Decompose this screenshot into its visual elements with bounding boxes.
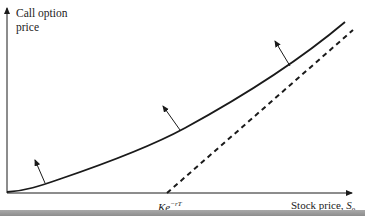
call-price-curve <box>7 22 345 192</box>
y-axis-label: Call option price <box>16 6 67 34</box>
arrow-2-icon <box>163 106 180 130</box>
footer-bar <box>0 210 365 216</box>
strike-label-exponent: −rT <box>170 200 181 208</box>
y-axis-label-line2: price <box>16 20 67 34</box>
arrow-1-icon <box>35 160 45 183</box>
lower-bound-dashed-line <box>167 30 353 193</box>
y-axis-label-line1: Call option <box>16 6 67 20</box>
arrow-3-icon <box>275 41 290 66</box>
